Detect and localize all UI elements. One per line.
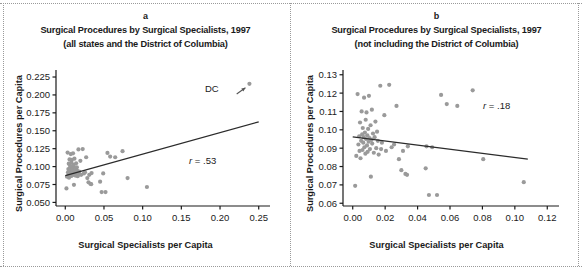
scatter-point — [362, 96, 366, 100]
x-tick-label: 0.06 — [441, 212, 460, 223]
y-tick-label: 0.06 — [319, 198, 338, 209]
annotation-arrow — [237, 88, 246, 94]
scatter-point — [361, 126, 365, 130]
correlation-value: = .53 — [192, 155, 216, 166]
scatter-point — [435, 193, 439, 197]
scatter-point — [427, 193, 431, 197]
scatter-point — [373, 135, 377, 139]
scatter-point — [424, 166, 428, 170]
scatter-point — [358, 120, 362, 124]
scatter-point — [522, 180, 526, 184]
scatter-point — [481, 157, 485, 161]
x-tick-label: 0.00 — [343, 212, 362, 223]
scatter-point — [355, 92, 359, 96]
panel-b: b Surgical Procedures by Surgical Specia… — [291, 0, 582, 274]
scatter-point — [384, 149, 388, 153]
x-tick-label: 0.05 — [95, 212, 114, 223]
x-tick-label: 0.00 — [56, 212, 75, 223]
scatter-point — [365, 143, 369, 147]
scatter-point — [368, 147, 372, 151]
x-tick-label: 0.10 — [133, 212, 152, 223]
scatter-point — [439, 93, 443, 97]
scatter-point — [392, 142, 396, 146]
y-tick-label: 0.150 — [26, 125, 50, 136]
x-tick-label: 0.10 — [506, 212, 525, 223]
x-tick-label: 0.08 — [473, 212, 492, 223]
scatter-point — [101, 171, 105, 175]
scatter-point — [372, 151, 376, 155]
scatter-point — [74, 161, 78, 165]
scatter-point — [356, 142, 360, 146]
scatter-point — [64, 186, 68, 190]
x-tick-label: 0.02 — [376, 212, 395, 223]
scatter-point — [105, 151, 109, 155]
scatter-point — [98, 180, 102, 184]
scatter-point — [358, 156, 362, 160]
scatter-point — [103, 190, 107, 194]
scatter-point — [354, 154, 358, 158]
scatter-point — [89, 182, 93, 186]
scatter-point — [371, 131, 375, 135]
y-tick-label: 0.225 — [26, 71, 50, 82]
scatter-point — [113, 155, 117, 159]
scatter-point — [370, 108, 374, 112]
y-tick-label: 0.10 — [319, 124, 338, 135]
y-tick-label: 0.200 — [26, 89, 50, 100]
scatter-point — [125, 176, 129, 180]
panel-b-plot-area: 0.060.070.080.090.100.110.120.130.000.02… — [291, 0, 582, 274]
panel-b-correlation-label: r = .18 — [483, 100, 510, 111]
scatter-point — [373, 119, 377, 123]
scatter-point — [72, 157, 76, 161]
scatter-point — [84, 155, 88, 159]
scatter-point — [406, 144, 410, 148]
scatter-point — [455, 104, 459, 108]
x-tick-label: 0.15 — [172, 212, 191, 223]
x-tick-label: 0.04 — [408, 212, 427, 223]
y-tick-label: 0.075 — [26, 179, 50, 190]
y-tick-label: 0.125 — [26, 143, 50, 154]
scatter-point — [145, 185, 149, 189]
scatter-point — [387, 83, 391, 87]
scatter-point — [361, 141, 365, 145]
scatter-point — [364, 110, 368, 114]
y-tick-label: 0.07 — [319, 179, 338, 190]
y-tick-label: 0.175 — [26, 107, 50, 118]
y-tick-label: 0.050 — [26, 197, 50, 208]
x-tick-label: 0.12 — [538, 212, 557, 223]
scatter-point — [405, 173, 409, 177]
scatter-point — [377, 153, 381, 157]
y-tick-label: 0.09 — [319, 143, 338, 154]
panel-a-correlation-label: r = .53 — [189, 155, 216, 166]
scatter-point — [108, 154, 112, 158]
scatter-point — [75, 165, 79, 169]
figure-container: a Surgical Procedures by Surgical Specia… — [0, 0, 582, 274]
y-tick-label: 0.12 — [319, 88, 338, 99]
x-tick-label: 0.25 — [249, 212, 268, 223]
scatter-point — [120, 149, 124, 153]
scatter-point — [471, 88, 475, 92]
scatter-point — [81, 147, 85, 151]
panel-a-plot-area: 0.0500.0750.1000.1250.1500.1750.2000.225… — [0, 0, 291, 274]
x-tick-label: 0.20 — [211, 212, 230, 223]
scatter-point — [364, 118, 368, 122]
scatter-point — [394, 104, 398, 108]
scatter-point — [366, 127, 370, 131]
scatter-point — [89, 171, 93, 175]
scatter-point — [76, 147, 80, 151]
scatter-point — [247, 82, 251, 86]
scatter-point — [379, 147, 383, 151]
scatter-point — [382, 113, 386, 117]
scatter-point — [378, 84, 382, 88]
scatter-point — [445, 102, 449, 106]
scatter-point — [399, 168, 403, 172]
scatter-point — [78, 159, 82, 163]
y-tick-label: 0.11 — [319, 106, 337, 117]
y-tick-label: 0.13 — [319, 69, 338, 80]
scatter-point — [71, 151, 75, 155]
scatter-point — [353, 184, 357, 188]
panel-a-dc-annotation: DC — [205, 83, 219, 94]
scatter-point — [367, 94, 371, 98]
scatter-point — [72, 183, 76, 187]
trend-line — [65, 122, 258, 176]
scatter-point — [375, 130, 379, 134]
